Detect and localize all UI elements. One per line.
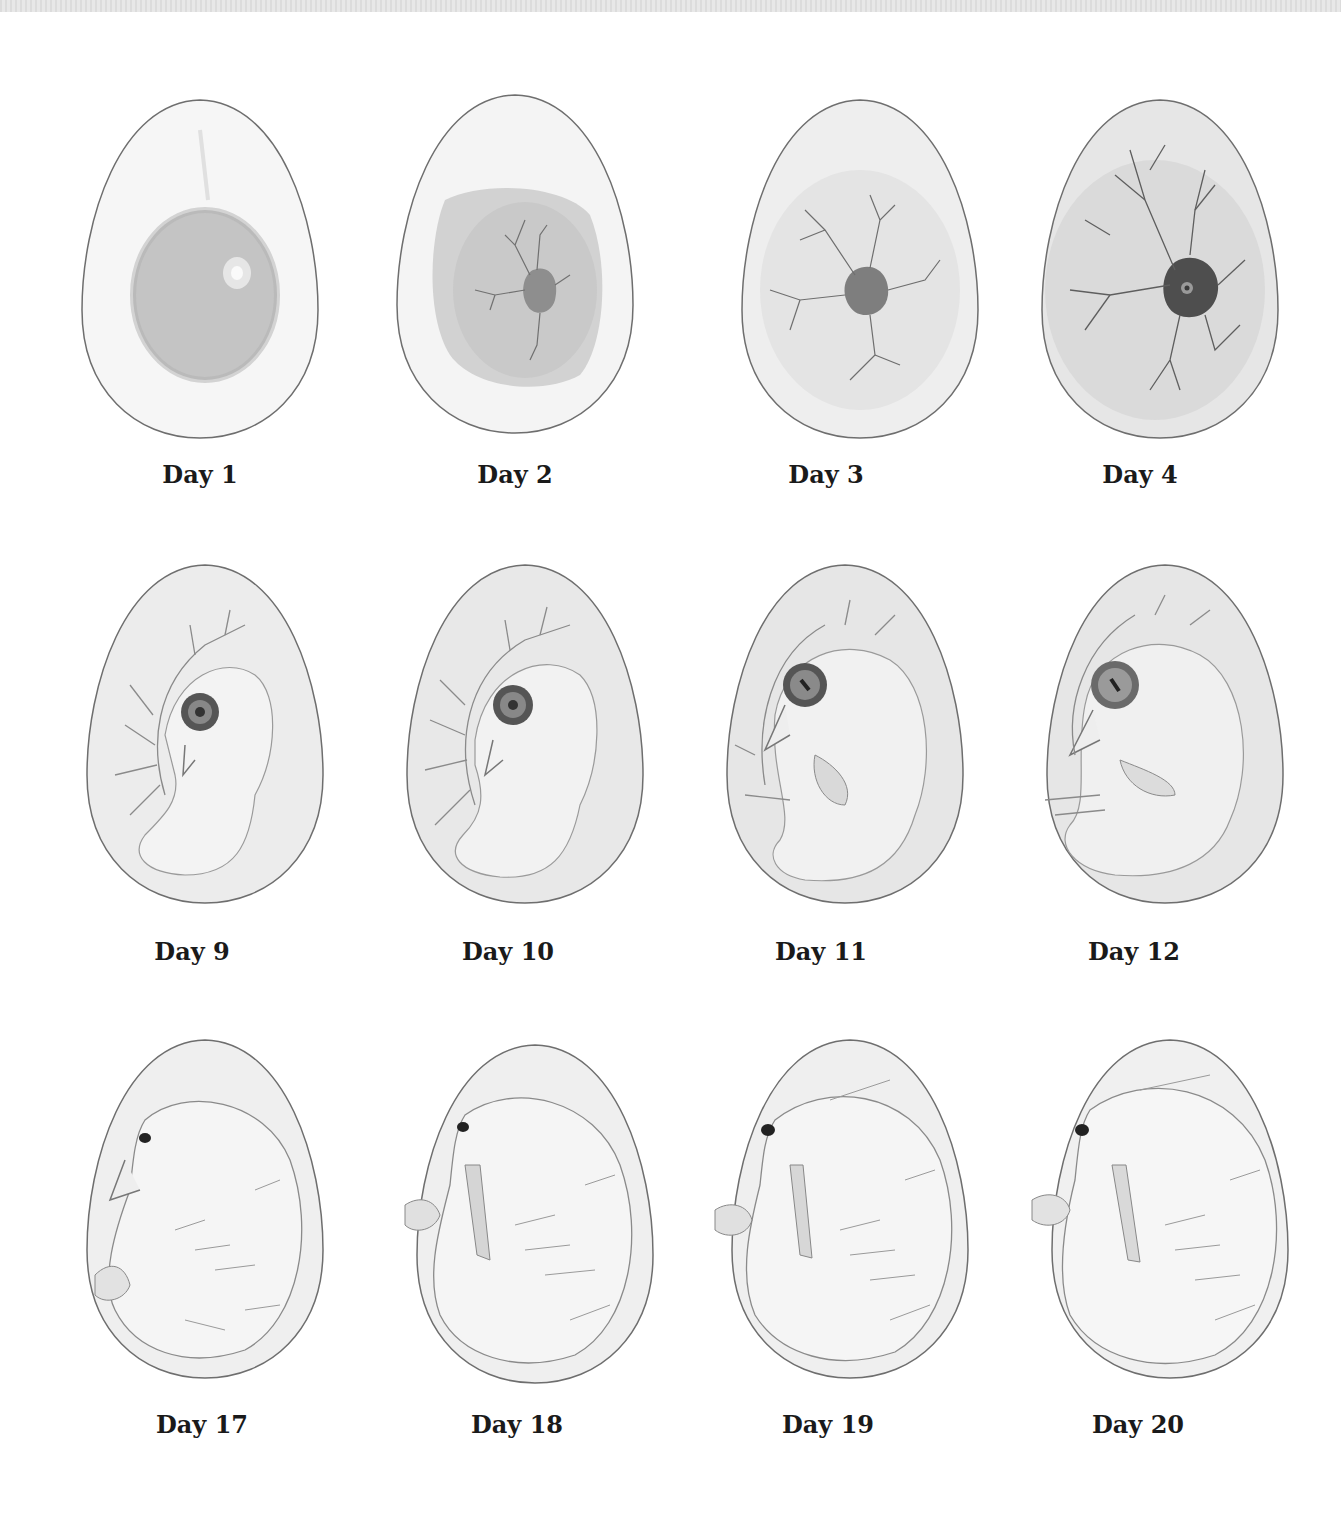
day-label: Day 2 [365, 460, 665, 489]
egg-day-12 [1015, 555, 1315, 915]
day-label: Day 18 [367, 1410, 667, 1439]
egg-day-4 [1010, 90, 1310, 450]
egg-illustration-icon [700, 1030, 1000, 1390]
day-label: Day 11 [671, 937, 971, 966]
egg-day-11 [695, 555, 995, 915]
day-label: Day 4 [990, 460, 1290, 489]
egg-day-18 [385, 1035, 685, 1395]
egg-illustration-icon [385, 1035, 685, 1395]
egg-illustration-icon [695, 555, 995, 915]
egg-day-17 [55, 1030, 355, 1390]
egg-day-2 [365, 85, 665, 445]
day-label: Day 12 [984, 937, 1284, 966]
egg-illustration-icon [1010, 90, 1310, 450]
egg-illustration-icon [375, 555, 675, 915]
day-label: Day 19 [678, 1410, 978, 1439]
day-label: Day 1 [50, 460, 350, 489]
egg-illustration-icon [710, 90, 1010, 450]
egg-illustration-icon [1020, 1030, 1320, 1390]
egg-illustration-icon [55, 1030, 355, 1390]
egg-illustration-icon [365, 85, 665, 445]
egg-day-9 [55, 555, 355, 915]
egg-day-19 [700, 1030, 1000, 1390]
egg-illustration-icon [1015, 555, 1315, 915]
day-label: Day 3 [676, 460, 976, 489]
egg-day-3 [710, 90, 1010, 450]
egg-day-10 [375, 555, 675, 915]
day-label: Day 10 [358, 937, 658, 966]
egg-illustration-icon [50, 90, 350, 450]
day-label: Day 17 [52, 1410, 352, 1439]
day-label: Day 9 [42, 937, 342, 966]
egg-day-1 [50, 90, 350, 450]
day-label: Day 20 [988, 1410, 1288, 1439]
egg-illustration-icon [55, 555, 355, 915]
top-scan-band [0, 0, 1341, 12]
egg-day-20 [1020, 1030, 1320, 1390]
